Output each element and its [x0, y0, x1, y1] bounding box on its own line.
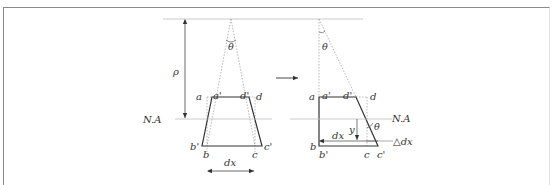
right-ray [231, 19, 255, 146]
deformed-element [202, 97, 262, 146]
label-d-prime: d' [343, 90, 352, 101]
theta-top-label: θ [322, 41, 328, 52]
label-b-prime: b' [319, 149, 328, 160]
theta-label: θ [228, 41, 234, 52]
label-c: c [364, 149, 370, 160]
slanted-ray [319, 19, 356, 97]
label-c-prime: c' [264, 141, 272, 152]
label-a: a [309, 91, 315, 102]
label-b: b [203, 149, 209, 160]
dx-label: dx [332, 130, 344, 141]
label-c: c [252, 149, 258, 160]
label-a-prime: a' [322, 90, 331, 101]
label-a-prime: a' [213, 90, 222, 101]
dx-label: dx [224, 157, 236, 168]
label-d-prime: d' [240, 90, 249, 101]
label-b-prime: b' [190, 141, 199, 152]
label-d: d [370, 91, 376, 102]
delta-dx-label: △dx [393, 136, 413, 147]
theta-side-label: θ [374, 121, 380, 132]
label-c-prime: c' [377, 149, 385, 160]
rho-label: ρ [172, 66, 179, 77]
label-a: a [196, 91, 202, 102]
neutral-axis-label: N.A [142, 114, 162, 125]
theta-arc-top [319, 31, 325, 33]
label-b: b [310, 141, 316, 152]
deformed-element [319, 97, 378, 146]
right-figure: θ N.A y θ dx △dx a a' d' d b b' c c' [290, 19, 413, 160]
beam-bending-diagram: ρ θ N.A a a' d' d b' b c c' dx [0, 0, 553, 185]
label-d: d [256, 91, 262, 102]
left-ray [207, 19, 231, 146]
y-label: y [348, 124, 355, 135]
neutral-axis-label: N.A [391, 113, 411, 124]
left-figure: ρ θ N.A a a' d' d b' b c c' dx [142, 19, 272, 171]
